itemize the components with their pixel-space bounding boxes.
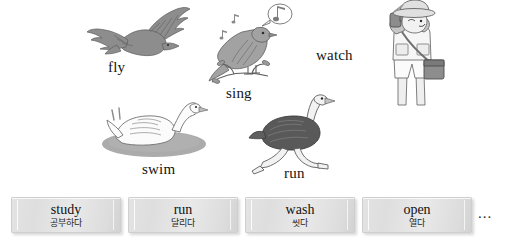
word-card-strip: study 공부하다 run 달리다 wash 씻다 open 열다 ... [0,190,506,246]
illustration-watch: watch [372,0,456,108]
flying-bird-icon [84,4,194,60]
word-card-english: run [174,202,193,217]
word-card-korean: 열다 [409,218,425,229]
illustration-run: run [248,92,348,188]
singing-bird-icon [204,2,300,88]
swan-icon [98,98,214,160]
music-note-bubble [262,4,292,26]
word-card-wash[interactable]: wash 씻다 [245,197,355,233]
word-card-korean: 씻다 [292,218,308,229]
illustration-stage: fly [0,0,506,190]
illustration-swim: swim [98,98,214,178]
word-card-english: open [403,202,430,217]
word-card-korean: 달리다 [171,218,195,229]
birdwatcher-icon [372,0,456,108]
word-card-open[interactable]: open 열다 [362,197,472,233]
word-card-korean: 공부하다 [50,218,82,229]
word-card-english: study [51,202,81,217]
label-watch: watch [316,48,353,63]
label-run: run [284,166,305,181]
overflow-ellipsis[interactable]: ... [478,206,492,221]
word-picture-panel: fly [0,0,506,246]
illustration-fly: fly [84,4,194,74]
ostrich-icon [248,92,348,176]
label-fly: fly [108,60,125,75]
word-card-english: wash [286,202,315,217]
label-swim: swim [142,162,175,177]
illustration-sing: sing [204,2,300,102]
word-card-run[interactable]: run 달리다 [128,197,238,233]
word-card-study[interactable]: study 공부하다 [11,197,121,233]
